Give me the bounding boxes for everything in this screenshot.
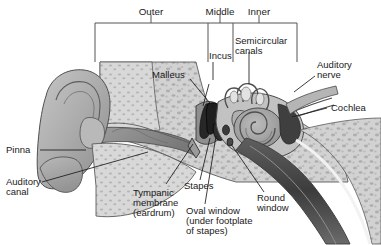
label-cochlea: Cochlea <box>331 102 367 113</box>
region-label-middle: Middle <box>206 6 235 17</box>
label-round-window-line2: window <box>256 202 289 213</box>
label-malleus: Malleus <box>152 69 185 80</box>
label-semicircular-canals-line2: canals <box>235 45 263 56</box>
label-auditory-nerve-line2: nerve <box>317 69 341 80</box>
region-label-outer: Outer <box>139 6 164 17</box>
label-tympanic-membrane-line3: (eardrum) <box>133 207 175 218</box>
label-auditory-canal-line2: canal <box>6 186 29 197</box>
ear-anatomy-figure: Outer Middle Inner Malleus Incus Semicir… <box>0 0 381 245</box>
oval-window <box>223 125 230 135</box>
label-incus: Incus <box>209 50 232 61</box>
label-pinna: Pinna <box>6 144 31 155</box>
region-labels: Outer Middle Inner <box>139 6 271 17</box>
label-stapes: Stapes <box>184 180 214 191</box>
region-label-inner: Inner <box>248 6 271 17</box>
label-oval-window-line3: of stapes) <box>186 225 228 236</box>
round-window <box>227 138 233 146</box>
